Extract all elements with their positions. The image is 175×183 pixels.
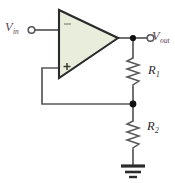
wire-feedback-loop (42, 68, 133, 104)
input-terminal-circle[interactable] (28, 27, 35, 34)
label-vout: Vout (152, 30, 169, 43)
label-vin: Vin (5, 21, 18, 34)
circuit-diagram: Vin Vout R1 R2 (0, 0, 175, 183)
output-node-dot (130, 35, 136, 41)
label-vin-subscript: in (13, 27, 19, 36)
label-vout-symbol: V (152, 29, 160, 43)
opamp-triangle (59, 10, 118, 78)
label-r2-subscript: 2 (155, 126, 159, 135)
label-r1-subscript: 1 (156, 70, 160, 79)
label-vin-symbol: V (5, 20, 13, 34)
resistor-r1-zigzag (127, 58, 139, 88)
feedback-divider-node-dot (130, 101, 137, 108)
label-r2: R2 (147, 120, 158, 133)
label-r2-symbol: R (147, 119, 155, 133)
resistor-r2-zigzag (127, 121, 139, 151)
label-r1-symbol: R (148, 63, 156, 77)
label-vout-subscript: out (160, 36, 170, 45)
label-r1: R1 (148, 64, 159, 77)
circuit-schematic-svg (0, 0, 175, 183)
